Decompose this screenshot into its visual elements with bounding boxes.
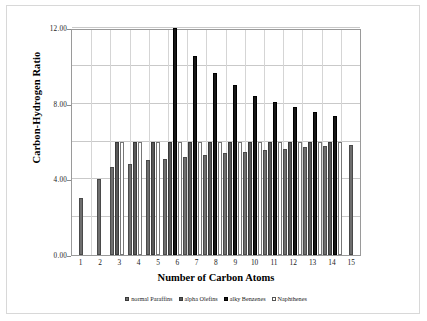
bar bbox=[298, 142, 302, 256]
bar bbox=[253, 96, 257, 255]
x-axis-tick-label: 14 bbox=[322, 258, 341, 267]
y-axis-ticks: 0.004.008.0012.00 bbox=[25, 29, 67, 256]
x-axis-tick-label: 3 bbox=[110, 258, 129, 267]
bar bbox=[110, 167, 114, 255]
x-axis-tick-label: 11 bbox=[264, 258, 283, 267]
bar bbox=[278, 142, 282, 256]
bar bbox=[248, 142, 252, 256]
bar bbox=[97, 179, 101, 255]
bar bbox=[183, 157, 187, 255]
bar bbox=[263, 150, 267, 255]
bar bbox=[238, 142, 242, 256]
legend-item[interactable]: alky Benzenes bbox=[224, 295, 266, 302]
bar-group bbox=[342, 30, 360, 255]
legend-label: alpha Olefins bbox=[185, 295, 218, 302]
chart-frame: Carbon-Hydrogen Ratio 0.004.008.0012.00 … bbox=[6, 5, 420, 314]
y-axis-tick-mark bbox=[67, 256, 71, 257]
x-axis-tick-label: 15 bbox=[342, 258, 361, 267]
bar-group bbox=[90, 30, 108, 255]
bar bbox=[233, 85, 237, 255]
bar bbox=[188, 142, 192, 256]
bar bbox=[173, 28, 177, 255]
bar bbox=[268, 142, 272, 256]
bar bbox=[228, 142, 232, 256]
x-axis-tick-label: 10 bbox=[245, 258, 264, 267]
x-axis-tick-label: 7 bbox=[187, 258, 206, 267]
bar bbox=[146, 160, 150, 255]
x-axis-tick-label: 1 bbox=[71, 258, 90, 267]
bar-group bbox=[202, 30, 222, 255]
legend-label: normal Paraffins bbox=[131, 295, 172, 302]
bar bbox=[338, 142, 342, 256]
x-axis-tick-label: 8 bbox=[206, 258, 225, 267]
x-axis-tick-label: 4 bbox=[129, 258, 148, 267]
bar bbox=[349, 145, 353, 255]
legend-item[interactable]: normal Paraffins bbox=[125, 295, 172, 302]
plot-area bbox=[71, 29, 361, 256]
legend-swatch-icon bbox=[125, 297, 129, 301]
legend-swatch-icon bbox=[179, 297, 183, 301]
bar bbox=[273, 102, 277, 255]
x-axis-title: Number of Carbon Atoms bbox=[71, 272, 361, 283]
x-axis-tick-label: 5 bbox=[148, 258, 167, 267]
y-axis-tick-label: 12.00 bbox=[50, 25, 67, 33]
bar bbox=[193, 56, 197, 255]
bar bbox=[243, 152, 247, 255]
bar bbox=[213, 73, 217, 255]
chart-legend: normal Paraffinsalpha Olefinsalky Benzen… bbox=[71, 295, 361, 302]
bar-group bbox=[126, 30, 144, 255]
y-axis-tick-label: 8.00 bbox=[54, 101, 67, 109]
gridline bbox=[72, 27, 360, 28]
legend-swatch-icon bbox=[224, 297, 228, 301]
bar bbox=[333, 116, 337, 255]
bar-group bbox=[302, 30, 322, 255]
x-axis-tick-label: 9 bbox=[226, 258, 245, 267]
bar-groups bbox=[72, 30, 360, 255]
bar bbox=[156, 142, 160, 256]
bar-group bbox=[322, 30, 342, 255]
bar bbox=[218, 142, 222, 256]
bar bbox=[163, 159, 167, 255]
bar bbox=[128, 164, 132, 255]
bar bbox=[258, 142, 262, 256]
legend-swatch-icon bbox=[272, 297, 276, 301]
bar bbox=[318, 142, 322, 256]
y-axis-tick-label: 0.00 bbox=[54, 252, 67, 260]
bar-group bbox=[72, 30, 90, 255]
bar-group bbox=[222, 30, 242, 255]
bar bbox=[168, 142, 172, 256]
bar bbox=[323, 146, 327, 255]
bar-group bbox=[108, 30, 126, 255]
bar bbox=[283, 149, 287, 255]
bar bbox=[223, 153, 227, 255]
x-axis-tick-label: 12 bbox=[284, 258, 303, 267]
bar bbox=[313, 112, 317, 255]
bar bbox=[208, 142, 212, 256]
bar-group bbox=[182, 30, 202, 255]
bar bbox=[79, 198, 83, 255]
bar-group bbox=[144, 30, 162, 255]
bar bbox=[198, 142, 202, 256]
legend-item[interactable]: alpha Olefins bbox=[179, 295, 218, 302]
bar bbox=[288, 142, 292, 256]
bar bbox=[203, 155, 207, 255]
bar bbox=[138, 142, 142, 256]
bar bbox=[303, 147, 307, 255]
x-axis-tick-label: 13 bbox=[303, 258, 322, 267]
bar bbox=[115, 142, 119, 256]
y-axis-tick-label: 4.00 bbox=[54, 176, 67, 184]
bar-group bbox=[242, 30, 262, 255]
bar bbox=[133, 142, 137, 256]
bar bbox=[328, 142, 332, 256]
bar bbox=[293, 107, 297, 255]
legend-item[interactable]: Naphthenes bbox=[272, 295, 307, 302]
bar-group bbox=[262, 30, 282, 255]
bar bbox=[120, 142, 124, 256]
x-axis-ticks: 123456789101112131415 bbox=[71, 258, 361, 267]
x-axis-tick-label: 2 bbox=[90, 258, 109, 267]
bar-group bbox=[162, 30, 182, 255]
legend-label: alky Benzenes bbox=[230, 295, 266, 302]
bar-group bbox=[282, 30, 302, 255]
bar bbox=[151, 142, 155, 256]
bar bbox=[178, 142, 182, 256]
